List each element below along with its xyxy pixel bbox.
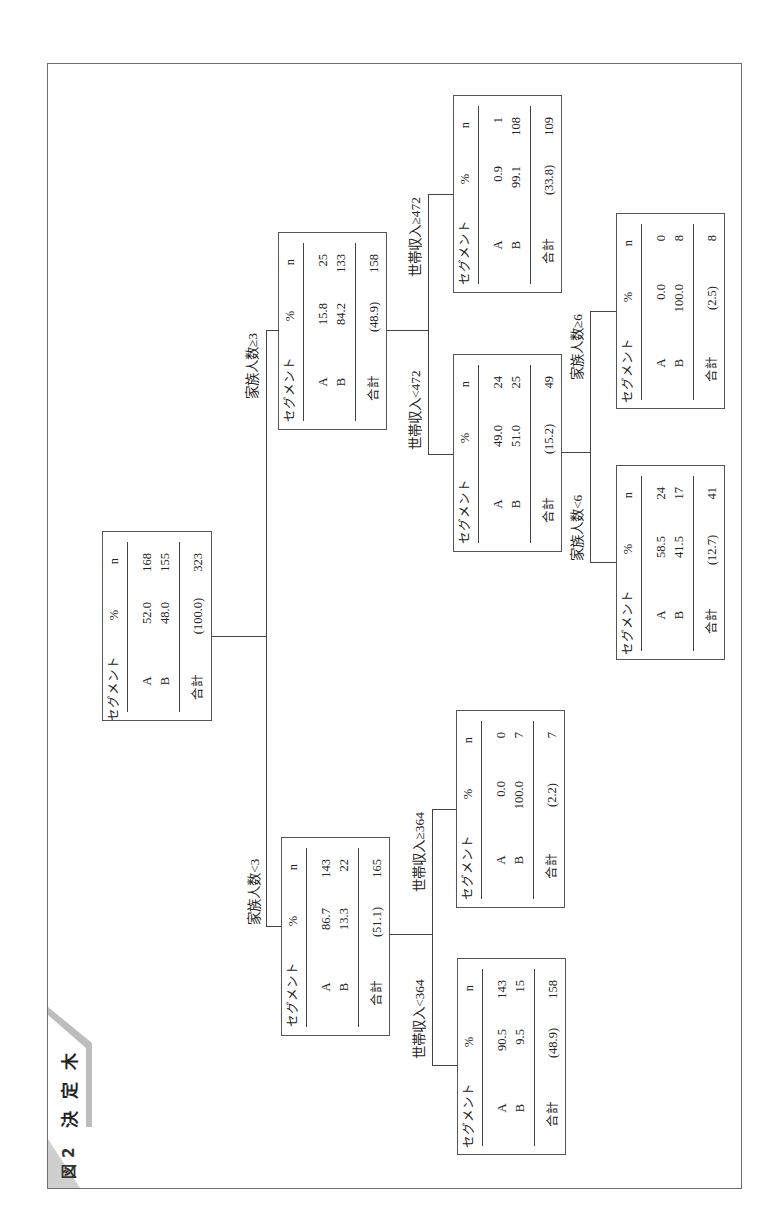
total-rule — [530, 365, 531, 543]
header-segment-label: セグメント — [457, 220, 473, 285]
figure-number: 図2 — [60, 1142, 78, 1179]
connector-line — [428, 194, 429, 455]
header-rule — [641, 224, 642, 400]
connector-line — [432, 1065, 457, 1066]
total-label: 合計 — [704, 601, 720, 641]
segment-a-percent: 49.0 — [490, 425, 506, 447]
total-label: 合計 — [541, 231, 557, 271]
segment-b-percent: 100.0 — [511, 781, 527, 809]
total-rule — [693, 476, 694, 651]
segment-a-percent: 90.5 — [494, 1029, 510, 1051]
split-label-income-lt-472: 世帯収入<472 — [408, 370, 424, 450]
segment-b-percent: 51.0 — [508, 425, 524, 447]
total-rule — [534, 969, 535, 1146]
header-rule — [303, 243, 304, 421]
segment-b-percent: 48.0 — [157, 602, 173, 624]
segment-b-label: B — [511, 850, 527, 870]
segment-a-label: A — [653, 353, 669, 373]
total-percent: (51.1) — [369, 892, 385, 952]
segment-a-label: A — [490, 494, 506, 514]
tree-node-income-ge-364: セグメント % n A 0.0 0 B 100.0 7 合計 (2.2) 7 — [456, 710, 565, 908]
segment-a-percent: 52.0 — [139, 602, 155, 624]
segment-a-count: 25 — [315, 254, 331, 267]
segment-b-count: 15 — [512, 980, 528, 993]
connector-line — [562, 452, 590, 453]
split-label-income-lt-364: 世帯収入<364 — [412, 979, 428, 1059]
total-label: 合計 — [369, 973, 385, 1013]
tree-node-family-ge-3: セグメント % n A 15.8 25 B 84.2 133 合計 (48.9)… — [278, 232, 387, 430]
header-percent-label: % — [461, 1032, 477, 1052]
total-count: 323 — [190, 553, 206, 572]
total-percent: (2.5) — [704, 268, 720, 328]
total-label: 合計 — [545, 1094, 561, 1134]
header-segment-label: セグメント — [285, 962, 301, 1027]
figure-page: 図2 決定木 家族人数<3 家族人数≥3 世帯収入<364 世帯収入≥364 世… — [0, 0, 777, 1231]
segment-a-count: 0 — [653, 235, 669, 241]
connector-line — [266, 330, 278, 331]
connector-line — [432, 809, 456, 810]
segment-b-label: B — [333, 372, 349, 392]
header-n-label: n — [620, 485, 636, 505]
tree-node-root: セグメント % n A 52.0 168 B 48.0 155 合計 (100.… — [102, 531, 212, 721]
header-rule — [478, 365, 479, 543]
header-percent-label: % — [106, 605, 122, 625]
total-label: 合計 — [544, 846, 560, 886]
segment-b-count: 155 — [157, 553, 173, 572]
header-segment-label: セグメント — [461, 1083, 477, 1148]
header-rule — [127, 542, 128, 712]
tree-node-family-ge-6: セグメント % n A 0.0 0 B 100.0 8 合計 (2.5) 8 — [616, 213, 725, 409]
segment-a-label: A — [490, 235, 506, 255]
segment-b-percent: 100.0 — [671, 284, 687, 312]
segment-a-label: A — [494, 1098, 510, 1118]
header-percent-label: % — [460, 784, 476, 804]
total-count: 49 — [541, 376, 557, 389]
total-percent: (48.9) — [545, 1013, 561, 1073]
figure-title: 決定木 — [60, 1041, 80, 1128]
total-count: 158 — [545, 980, 561, 999]
header-n-label: n — [106, 551, 122, 571]
header-percent-label: % — [282, 306, 298, 326]
header-percent-label: % — [457, 428, 473, 448]
connector-line — [387, 330, 428, 331]
segment-b-count: 133 — [333, 254, 349, 273]
segment-a-percent: 58.5 — [653, 536, 669, 558]
connector-line — [390, 934, 432, 935]
split-label-family-ge-6: 家族人数≥6 — [570, 314, 586, 414]
segment-b-label: B — [157, 671, 173, 691]
segment-a-label: A — [315, 372, 331, 392]
segment-a-count: 0 — [493, 732, 509, 738]
total-percent: (15.2) — [541, 409, 557, 469]
total-count: 41 — [704, 487, 720, 500]
segment-b-label: B — [508, 494, 524, 514]
split-label-income-ge-472: 世帯収入≥472 — [408, 197, 424, 297]
connector-line — [590, 562, 616, 563]
segment-a-count: 143 — [494, 980, 510, 999]
header-percent-label: % — [285, 911, 301, 931]
header-segment-label: セグメント — [282, 357, 298, 422]
tree-node-family-lt-3: セグメント % n A 86.7 143 B 13.3 22 合計 (51.1)… — [281, 837, 390, 1036]
header-percent-label: % — [457, 169, 473, 189]
header-n-label: n — [461, 978, 477, 998]
tree-node-family-lt-6: セグメント % n A 58.5 24 B 41.5 17 合計 (12.7) … — [616, 465, 725, 660]
header-segment-label: セグメント — [620, 338, 636, 403]
tree-node-income-ge-472: セグメント % n A 0.9 1 B 99.1 108 合計 (33.8) 1… — [453, 95, 562, 293]
segment-a-count: 24 — [490, 376, 506, 389]
segment-a-count: 1 — [490, 117, 506, 123]
tree-node-income-lt-364: セグメント % n A 90.5 143 B 9.5 15 合計 (48.9) … — [457, 958, 566, 1155]
segment-a-count: 24 — [653, 487, 669, 500]
total-count: 8 — [704, 235, 720, 241]
total-label: 合計 — [366, 368, 382, 408]
segment-a-label: A — [493, 850, 509, 870]
segment-a-count: 168 — [139, 553, 155, 572]
segment-a-percent: 86.7 — [318, 908, 334, 930]
total-rule — [358, 848, 359, 1027]
segment-b-label: B — [512, 1098, 528, 1118]
total-percent: (2.2) — [544, 765, 560, 825]
total-label: 合計 — [704, 349, 720, 389]
segment-b-label: B — [671, 353, 687, 373]
total-count: 7 — [544, 732, 560, 738]
connector-line — [266, 330, 267, 927]
total-count: 109 — [541, 117, 557, 136]
split-label-family-ge-3: 家族人数≥3 — [245, 333, 261, 433]
total-label: 合計 — [190, 667, 206, 707]
